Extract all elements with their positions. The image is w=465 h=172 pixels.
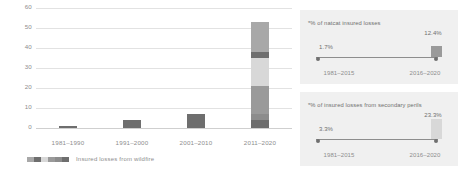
panel-natcat-left-period: 1981–2015	[314, 70, 364, 76]
panel-secondary-right-marker	[434, 139, 438, 143]
bar-segment-2020[interactable]	[251, 22, 269, 52]
y-tick-label: 60	[18, 3, 32, 10]
wildfire-losses-infographic: 0102030405060 202020192018201720162011–2…	[0, 0, 465, 172]
panel-secondary-right-period: 2016–2020	[400, 152, 450, 158]
panel-secondary-perils: *% of insured losses from secondary peri…	[300, 92, 458, 166]
x-label-1981–1990: 1981–1990	[38, 139, 98, 146]
y-tick-label: 30	[18, 63, 32, 70]
bar-1991–2000[interactable]	[123, 120, 141, 128]
panel-natcat-insured-losses: *% of natcat insured losses 1.7% 12.4% 1…	[300, 10, 458, 84]
legend-swatch-2019	[34, 157, 41, 162]
y-tick-label: 20	[18, 83, 32, 90]
legend-label: Insured losses from wildfire	[76, 156, 154, 162]
panel-secondary-title: *% of insured losses from secondary peri…	[308, 102, 422, 108]
legend-swatch-2020	[27, 157, 34, 162]
bar-body[interactable]	[59, 126, 77, 128]
grid-line	[36, 128, 292, 129]
y-tick-label: 0	[18, 123, 32, 130]
panel-secondary-right-value: 23.3%	[413, 112, 453, 118]
panel-secondary-plot: 3.3% 23.3%	[308, 116, 450, 150]
panel-natcat-right-period: 2016–2020	[400, 70, 450, 76]
x-axis-labels: 1981–19901991–20002001–20102011–2020	[36, 139, 292, 151]
bar-segment-2018[interactable]	[251, 58, 269, 86]
legend-swatch-2016	[55, 157, 62, 162]
chart-legend: Insured losses from wildfire	[27, 156, 154, 162]
bar-2001–2010[interactable]	[187, 114, 205, 128]
panel-natcat-plot: 1.7% 12.4%	[308, 34, 450, 68]
y-tick-label: 10	[18, 103, 32, 110]
bar-body[interactable]	[187, 114, 205, 128]
plot-area: 202020192018201720162011–2015	[36, 8, 292, 128]
bar-segment-2017[interactable]	[251, 86, 269, 114]
y-tick-label: 40	[18, 43, 32, 50]
panel-secondary-left-value: 3.3%	[306, 126, 346, 132]
legend-swatch-2018	[41, 157, 48, 162]
panel-secondary-left-period: 1981–2015	[314, 152, 364, 158]
bar-2011–2020[interactable]: 202020192018201720162011–2015	[251, 22, 269, 128]
x-label-1991–2000: 1991–2000	[102, 139, 162, 146]
panel-natcat-title: *% of natcat insured losses	[308, 20, 381, 26]
panel-natcat-right-bar	[431, 46, 442, 57]
panel-natcat-axis	[316, 57, 438, 58]
panel-natcat-right-marker	[434, 57, 438, 61]
panel-secondary-axis	[316, 139, 438, 140]
panel-natcat-right-value: 12.4%	[413, 30, 453, 36]
panel-natcat-left-marker	[316, 57, 320, 61]
panel-natcat-left-value: 1.7%	[306, 44, 346, 50]
bar-body[interactable]	[123, 120, 141, 128]
panel-secondary-right-bar	[431, 119, 442, 140]
legend-swatch-2017	[48, 157, 55, 162]
panel-secondary-left-marker	[316, 139, 320, 143]
legend-swatches	[27, 157, 69, 162]
bar-segment-2011–2015[interactable]	[251, 120, 269, 128]
bar-1981–1990[interactable]	[59, 126, 77, 128]
main-bar-chart: 0102030405060 202020192018201720162011–2…	[0, 0, 292, 172]
legend-swatch-2011–2015	[62, 157, 69, 162]
x-label-2011–2020: 2011–2020	[230, 139, 290, 146]
y-tick-label: 50	[18, 23, 32, 30]
x-label-2001–2010: 2001–2010	[166, 139, 226, 146]
